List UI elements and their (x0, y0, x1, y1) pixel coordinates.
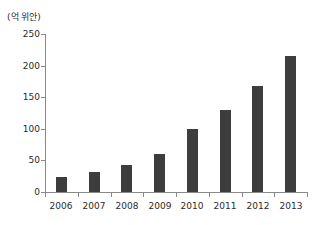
x-axis-tick-label: 2011 (208, 201, 242, 211)
x-axis-tick-label: 2008 (110, 201, 144, 211)
bar-2007 (89, 172, 100, 192)
x-axis-tick (209, 193, 210, 197)
y-axis-tick (41, 129, 45, 130)
y-axis-tick (41, 66, 45, 67)
bar-2013 (285, 56, 296, 192)
x-axis-tick-label: 2009 (143, 201, 177, 211)
bar-2009 (154, 154, 165, 192)
x-axis-tick (242, 193, 243, 197)
y-axis-tick-label: 0 (10, 187, 40, 197)
y-axis-tick-label: 150 (10, 92, 40, 102)
x-axis-tick-label: 2012 (241, 201, 275, 211)
y-axis-tick (41, 34, 45, 35)
y-axis-tick-label: 200 (10, 61, 40, 71)
bar-chart: (억 위안) 050100150200250200620072008200920… (0, 0, 320, 225)
x-axis-tick (111, 193, 112, 197)
bar-2010 (187, 129, 198, 192)
x-axis-tick-label: 2006 (44, 201, 78, 211)
y-axis-tick (41, 160, 45, 161)
bar-2008 (121, 165, 132, 192)
y-axis-tick-label: 250 (10, 29, 40, 39)
bar-2012 (252, 86, 263, 192)
y-axis-line (45, 34, 46, 192)
x-axis-tick (176, 193, 177, 197)
bar-2011 (220, 110, 231, 192)
x-axis-tick-label: 2010 (175, 201, 209, 211)
x-axis-tick-label: 2013 (274, 201, 308, 211)
bar-2006 (56, 177, 67, 192)
y-axis-tick-label: 100 (10, 124, 40, 134)
x-axis-tick (45, 193, 46, 197)
y-axis-unit-label: (억 위안) (7, 12, 41, 22)
x-axis-tick-label: 2007 (77, 201, 111, 211)
x-axis-tick (78, 193, 79, 197)
y-axis-tick-label: 50 (10, 155, 40, 165)
x-axis-tick (143, 193, 144, 197)
x-axis-tick (274, 193, 275, 197)
x-axis-tick (307, 193, 308, 197)
y-axis-tick (41, 97, 45, 98)
